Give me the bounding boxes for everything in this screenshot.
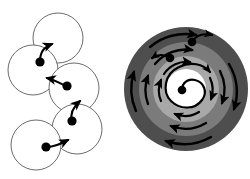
chain-dot-3 xyxy=(62,81,71,90)
figure-root: Two-panel motion diagram xyxy=(0,0,250,179)
chain-dot-4 xyxy=(67,116,76,125)
chain-dot-5 xyxy=(41,142,50,151)
right-panel-concentric-rings xyxy=(124,27,248,151)
ring-dot-core xyxy=(178,86,187,95)
diagram-canvas xyxy=(0,0,250,179)
chain-dot-2 xyxy=(35,57,44,66)
